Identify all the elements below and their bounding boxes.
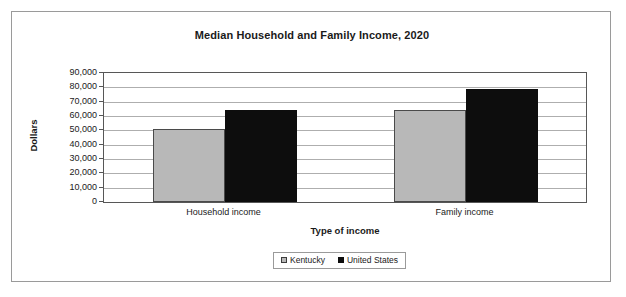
- legend-swatch-kentucky: [281, 257, 287, 263]
- figure-frame: Median Household and Family Income, 2020…: [11, 11, 611, 282]
- y-tick-label: 10,000: [45, 182, 97, 192]
- y-tick-mark: [99, 158, 103, 159]
- legend-label-united-states: United States: [347, 255, 398, 265]
- x-category-label: Household income: [164, 207, 284, 217]
- legend-entry-united-states: United States: [338, 255, 398, 265]
- y-tick-mark: [99, 101, 103, 102]
- legend-entry-kentucky: Kentucky: [281, 255, 325, 265]
- y-axis-title: Dollars: [28, 106, 39, 166]
- y-tick-label: 80,000: [45, 81, 97, 91]
- plot-area: [103, 72, 587, 203]
- y-tick-label: 60,000: [45, 110, 97, 120]
- y-tick-label: 90,000: [45, 67, 97, 77]
- y-tick-label: 70,000: [45, 96, 97, 106]
- legend-label-kentucky: Kentucky: [290, 255, 325, 265]
- x-category-label: Family income: [405, 207, 525, 217]
- bar-kentucky-family-income: [394, 110, 466, 202]
- chart-legend: Kentucky United States: [273, 252, 406, 269]
- y-tick-mark: [99, 72, 103, 73]
- y-tick-label: 40,000: [45, 139, 97, 149]
- y-tick-mark: [99, 187, 103, 188]
- y-tick-label: 50,000: [45, 124, 97, 134]
- y-tick-label: 20,000: [45, 167, 97, 177]
- y-tick-mark: [99, 86, 103, 87]
- y-tick-mark: [99, 172, 103, 173]
- legend-swatch-united-states: [338, 257, 344, 263]
- x-axis-title: Type of income: [103, 225, 587, 236]
- y-tick-mark: [99, 201, 103, 202]
- y-tick-mark: [99, 144, 103, 145]
- bar-united-states-household-income: [225, 110, 297, 202]
- gridline: [104, 87, 586, 88]
- y-tick-label: 0: [45, 196, 97, 206]
- chart-page: Median Household and Family Income, 2020…: [0, 0, 626, 297]
- y-tick-mark: [99, 129, 103, 130]
- y-tick-label: 30,000: [45, 153, 97, 163]
- chart-title: Median Household and Family Income, 2020: [12, 29, 612, 41]
- bar-united-states-family-income: [466, 89, 538, 202]
- y-tick-mark: [99, 115, 103, 116]
- bar-kentucky-household-income: [153, 129, 225, 202]
